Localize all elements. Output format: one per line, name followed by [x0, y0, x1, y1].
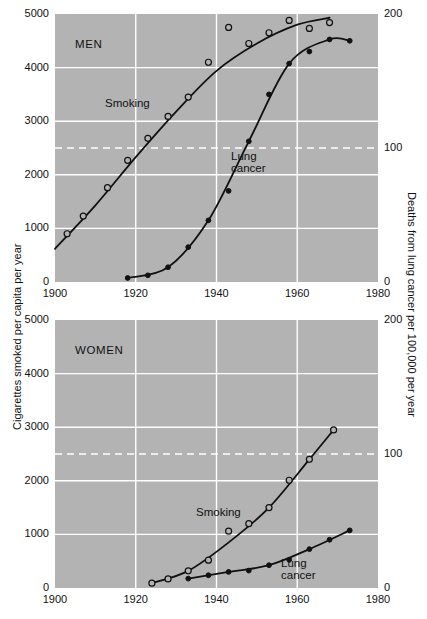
series-canvas-women: [55, 320, 378, 588]
data-point-filled: [206, 573, 211, 578]
data-point-open: [306, 456, 312, 462]
y-left-tick-men-1000: 1000: [7, 222, 49, 233]
data-point-filled: [327, 537, 332, 542]
data-point-open: [226, 528, 232, 534]
right-axis-title: Deaths from lung cancer per 100,000 per …: [406, 192, 417, 417]
data-point-open: [266, 30, 272, 36]
data-point-open: [246, 521, 252, 527]
data-point-open: [145, 135, 151, 141]
x-tick-men-1900: 1900: [39, 288, 71, 299]
y-left-tick-women-2000: 2000: [7, 475, 49, 486]
data-point-filled: [226, 570, 231, 575]
data-point-filled: [246, 139, 251, 144]
y-left-tick-women-3000: 3000: [7, 421, 49, 432]
x-tick-women-1940: 1940: [201, 594, 233, 605]
y-right-tick-women-200: 200: [384, 314, 424, 325]
data-point-open: [165, 576, 171, 582]
data-point-filled: [347, 38, 352, 43]
series-label-lung-cancer-men: Lung cancer: [231, 150, 266, 174]
plot-area-men: [55, 14, 378, 282]
y-left-tick-men-5000: 5000: [7, 8, 49, 19]
data-point-filled: [125, 276, 130, 281]
data-point-filled: [186, 245, 191, 250]
y-left-tick-men-2000: 2000: [7, 169, 49, 180]
data-point-open: [149, 580, 155, 586]
x-tick-women-1920: 1920: [120, 594, 152, 605]
y-left-tick-men-0: 0: [7, 276, 49, 287]
data-point-open: [286, 17, 292, 23]
x-tick-women-1960: 1960: [281, 594, 313, 605]
y-left-tick-men-4000: 4000: [7, 62, 49, 73]
data-point-filled: [287, 61, 292, 66]
data-point-filled: [246, 568, 251, 573]
x-tick-women-1980: 1980: [362, 594, 394, 605]
data-point-open: [266, 505, 272, 511]
data-point-open: [286, 477, 292, 483]
series-label-smoking-women: Smoking: [196, 506, 241, 518]
data-point-filled: [347, 528, 352, 533]
y-left-tick-men-3000: 3000: [7, 115, 49, 126]
y-left-tick-women-0: 0: [7, 582, 49, 593]
y-left-tick-women-5000: 5000: [7, 314, 49, 325]
data-point-filled: [267, 563, 272, 568]
y-right-tick-men-100: 100: [384, 142, 424, 153]
series-label-smoking-men: Smoking: [105, 97, 150, 109]
data-point-filled: [327, 37, 332, 42]
x-tick-men-1960: 1960: [281, 288, 313, 299]
data-point-open: [80, 213, 86, 219]
y-right-tick-men-0: 0: [384, 276, 424, 287]
panel-label-men: MEN: [75, 38, 102, 50]
data-point-open: [246, 40, 252, 46]
data-point-open: [125, 157, 131, 163]
data-point-open: [165, 113, 171, 119]
series-canvas-men: [55, 14, 378, 282]
figure-root: MEN Smoking Lung cancer WOMEN Smoking Lu…: [0, 0, 427, 619]
data-point-filled: [145, 273, 150, 278]
x-tick-men-1980: 1980: [362, 288, 394, 299]
data-point-filled: [186, 576, 191, 581]
data-point-filled: [307, 547, 312, 552]
x-tick-men-1920: 1920: [120, 288, 152, 299]
data-point-open: [205, 59, 211, 65]
data-point-open: [205, 557, 211, 563]
data-point-open: [306, 25, 312, 31]
y-right-tick-women-100: 100: [384, 448, 424, 459]
y-right-tick-women-0: 0: [384, 582, 424, 593]
curve-smoking: [55, 18, 330, 249]
data-point-open: [104, 185, 110, 191]
data-point-filled: [307, 49, 312, 54]
data-point-filled: [267, 92, 272, 97]
data-point-open: [64, 231, 70, 237]
data-point-open: [226, 24, 232, 30]
data-point-filled: [206, 218, 211, 223]
x-tick-men-1940: 1940: [201, 288, 233, 299]
data-point-open: [327, 20, 333, 26]
data-point-open: [185, 568, 191, 574]
data-point-open: [185, 94, 191, 100]
panel-label-women: WOMEN: [75, 344, 123, 356]
x-tick-women-1900: 1900: [39, 594, 71, 605]
plot-area-women: [55, 320, 378, 588]
y-right-tick-men-200: 200: [384, 8, 424, 19]
data-point-filled: [166, 265, 171, 270]
y-left-tick-women-1000: 1000: [7, 528, 49, 539]
left-axis-title: Cigarettes smoked per capita per year: [12, 244, 23, 430]
data-point-filled: [226, 188, 231, 193]
y-left-tick-women-4000: 4000: [7, 368, 49, 379]
data-point-open: [331, 427, 337, 433]
series-label-lung-cancer-women: Lung cancer: [281, 557, 316, 581]
